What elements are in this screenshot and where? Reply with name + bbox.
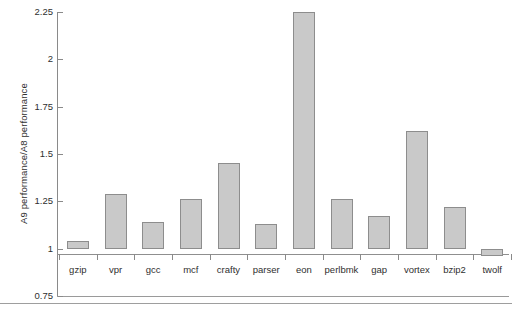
x-tick-mark xyxy=(473,254,474,260)
y-tick-mark xyxy=(58,201,63,202)
x-label-gap: gap xyxy=(360,264,398,275)
x-label-eon: eon xyxy=(285,264,323,275)
x-label-twolf: twolf xyxy=(473,264,511,275)
bar-chart-figure: A9 performance/A8 performance 2.2521.751… xyxy=(0,0,512,312)
x-label-mcf: mcf xyxy=(172,264,210,275)
x-label-perlbmk: perlbmk xyxy=(323,264,361,275)
y-tick-mark xyxy=(58,296,63,297)
x-label-gzip: gzip xyxy=(59,264,97,275)
y-tick-label: 1.25 xyxy=(35,195,54,206)
page-separator-rule xyxy=(0,303,512,304)
x-label-gcc: gcc xyxy=(134,264,172,275)
bar-perlbmk xyxy=(331,199,353,248)
y-tick: 1 xyxy=(57,249,63,250)
x-tick-mark xyxy=(59,254,60,260)
y-tick-mark xyxy=(58,154,63,155)
bar-vortex xyxy=(406,131,428,248)
bar-gcc xyxy=(142,222,164,249)
bar-vpr xyxy=(105,194,127,249)
x-tick-mark xyxy=(134,254,135,260)
x-label-vortex: vortex xyxy=(398,264,436,275)
y-tick: 1.5 xyxy=(57,154,63,155)
bar-parser xyxy=(255,224,277,249)
y-axis-title: A9 performance/A8 performance xyxy=(18,59,29,249)
x-label-crafty: crafty xyxy=(210,264,248,275)
x-tick-mark xyxy=(247,254,248,260)
x-tick-mark xyxy=(398,254,399,260)
y-tick-mark xyxy=(58,59,63,60)
x-tick-mark xyxy=(436,254,437,260)
x-label-parser: parser xyxy=(247,264,285,275)
y-tick-label: 1.5 xyxy=(40,148,53,159)
x-axis-bottom-line xyxy=(57,296,509,297)
bar-eon xyxy=(293,12,315,249)
y-tick-label: 1 xyxy=(48,243,53,254)
y-tick: 1.75 xyxy=(57,107,63,108)
y-tick-mark xyxy=(58,249,63,250)
bar-gzip xyxy=(67,241,89,249)
y-tick-mark xyxy=(58,107,63,108)
y-tick: 2 xyxy=(57,59,63,60)
x-label-vpr: vpr xyxy=(97,264,135,275)
y-tick-label: 1.75 xyxy=(35,101,54,112)
bar-crafty xyxy=(218,163,240,248)
y-tick: 2.25 xyxy=(57,12,63,13)
plot-area: 2.2521.751.51.2510.75 gzipvprgccmcfcraft… xyxy=(57,12,509,296)
bar-twolf xyxy=(481,249,503,257)
x-label-bzip2: bzip2 xyxy=(436,264,474,275)
value-one-baseline xyxy=(57,254,509,255)
bar-mcf xyxy=(180,199,202,248)
y-tick: 0.75 xyxy=(57,296,63,297)
x-tick-mark xyxy=(285,254,286,260)
y-tick-label: 2 xyxy=(48,53,53,64)
x-tick-mark xyxy=(360,254,361,260)
x-tick-mark xyxy=(323,254,324,260)
bar-gap xyxy=(368,216,390,248)
y-tick-mark xyxy=(58,12,63,13)
x-tick-mark xyxy=(172,254,173,260)
y-tick-label: 0.75 xyxy=(35,290,54,301)
bar-bzip2 xyxy=(444,207,466,249)
x-tick-mark xyxy=(97,254,98,260)
y-tick-label: 2.25 xyxy=(35,6,54,17)
y-tick: 1.25 xyxy=(57,201,63,202)
x-tick-mark xyxy=(210,254,211,260)
